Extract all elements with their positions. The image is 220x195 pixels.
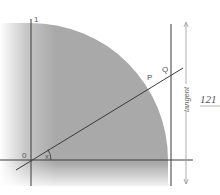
point-q-label: Q	[162, 65, 168, 74]
y-axis-one-label: 1	[34, 15, 39, 24]
angle-label: x	[45, 152, 49, 161]
origin-label: 0	[22, 151, 27, 160]
point-p-label: P	[147, 73, 152, 82]
diagram-canvas: 1 0 x P Q tangent 121	[0, 0, 220, 195]
tangent-label: tangent	[182, 86, 191, 112]
page-number: 121	[200, 93, 217, 105]
